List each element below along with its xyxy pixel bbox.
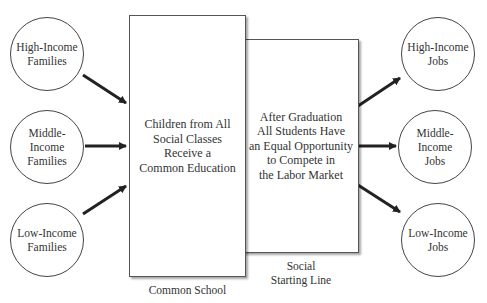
arrow-to-high-jobs [358,78,400,106]
middle-income-families-node: Middle- Income Families [10,110,84,184]
node-label: Middle- Income Families [27,126,67,168]
common-school-text: Children from All Social Classes Receive… [139,117,235,175]
node-label: Low-Income Jobs [408,226,467,254]
starting-line-box: After Graduation All Students Have an Eq… [243,39,359,253]
arrow-low-family-to-school [83,186,126,214]
node-label: Low-Income Families [17,226,76,254]
low-income-families-node: Low-Income Families [10,203,84,277]
node-label: High-Income Jobs [407,40,468,68]
common-school-box: Children from All Social Classes Receive… [129,15,246,277]
high-income-jobs-node: High-Income Jobs [401,17,475,91]
middle-income-jobs-node: Middle- Income Jobs [398,110,472,184]
low-income-jobs-node: Low-Income Jobs [401,203,475,277]
common-school-caption: Common School [129,283,246,297]
high-income-families-node: High-Income Families [10,17,84,91]
starting-line-text: After Graduation All Students Have an Eq… [249,110,353,183]
arrow-high-family-to-school [83,75,126,103]
node-label: Middle- Income Jobs [416,126,453,168]
node-label: High-Income Families [16,40,77,68]
starting-line-caption: Social Starting Line [243,259,359,287]
arrow-to-low-jobs [358,185,400,212]
